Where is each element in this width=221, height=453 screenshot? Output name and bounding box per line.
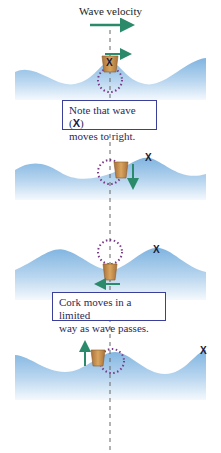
wave-marker-x-3: X [153, 244, 160, 255]
note-cork-limited-motion: Cork moves in a limited way as wave pass… [52, 292, 166, 321]
cork-4 [91, 350, 105, 366]
note2-line2: way as wave passes. [59, 322, 149, 334]
cork-3 [103, 264, 117, 280]
wave-marker-x-4: X [200, 345, 207, 356]
note1-marker: X [73, 117, 80, 129]
note2-line1: Cork moves in a limited [59, 296, 131, 321]
note1-line2: moves to right. [69, 130, 135, 142]
note-wave-moves-right: Note that wave (X) moves to right. [62, 100, 157, 130]
note1-suffix: ) [80, 117, 84, 129]
wave-marker-x-1: X [106, 57, 113, 68]
wave-marker-x-2: X [145, 152, 152, 163]
orbit-circle-3 [98, 240, 122, 264]
cork-2 [114, 162, 128, 178]
